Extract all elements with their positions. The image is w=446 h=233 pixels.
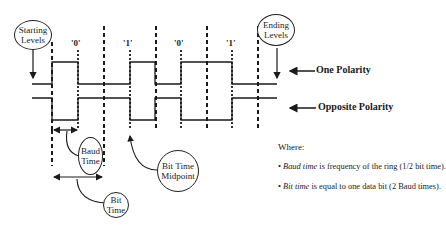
bit-label-3: '1' — [226, 38, 236, 48]
baud-time-callout: Baud Time — [78, 137, 103, 175]
bit-label-1: '1' — [123, 38, 133, 48]
ending-levels-callout: Ending Levels — [257, 14, 295, 46]
bit-time-callout: Bit Time — [103, 192, 129, 218]
bit-time-midpoint-callout: Bit Time Midpoint — [157, 150, 199, 192]
opposite-polarity-label: Opposite Polarity — [318, 101, 393, 112]
note-baud-time: • Baud time is frequency of the ring (1/… — [278, 162, 446, 171]
one-polarity-label: One Polarity — [316, 64, 371, 75]
bit-label-2: '0' — [174, 38, 184, 48]
one-polarity-signal — [32, 62, 277, 84]
note-bit-time: • Bit time is equal to one data bit (2 B… — [278, 182, 441, 191]
starting-levels-callout: Starting Levels — [14, 20, 52, 50]
bit-label-0: '0' — [71, 38, 81, 48]
opposite-polarity-signal — [32, 98, 277, 120]
where-heading: Where: — [278, 142, 304, 152]
